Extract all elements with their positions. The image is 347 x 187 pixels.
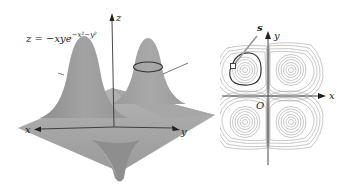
x-axis-label: x [25, 125, 31, 135]
formula-lhs: z [26, 33, 31, 44]
surface-plot [0, 0, 220, 187]
contour-y-label: y [274, 31, 280, 41]
formula-equals: = [34, 33, 42, 44]
y-axis-label: y [181, 127, 187, 137]
contour-plot [220, 0, 347, 187]
surface-formula: z = −xye−x²−y² [26, 31, 97, 44]
origin-label: O [256, 101, 264, 111]
pointer-line [233, 36, 257, 66]
z-axis-label: z [116, 13, 121, 23]
figure: z = −xye−x²−y² z x y [0, 0, 347, 187]
point-marker [231, 64, 236, 69]
formula-rhs-base: −xye [46, 33, 72, 44]
formula-exponent: −x²−y² [72, 31, 97, 39]
point-label-s: s [257, 23, 263, 33]
contour-x-label: x [329, 91, 335, 101]
